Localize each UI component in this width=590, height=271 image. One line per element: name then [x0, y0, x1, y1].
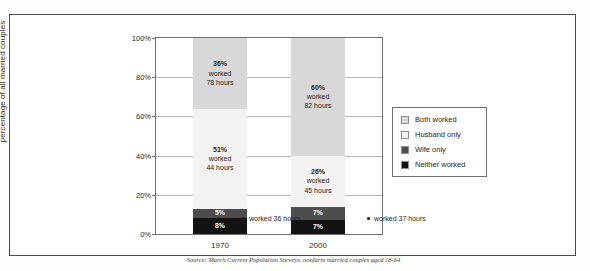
legend-label: Husband only: [415, 130, 461, 139]
segment-label-pct: 7%: [313, 209, 323, 218]
legend-label: Both worked: [415, 115, 457, 124]
wife-only-2000-callout: worked 37 hours: [367, 215, 426, 222]
legend-label: Wife only: [415, 145, 446, 154]
segment-label-pct: 36%: [213, 59, 227, 68]
chart-frame: percentage of all married couples 100% 8…: [9, 14, 576, 256]
segment-label-pct: 51%: [213, 145, 227, 154]
y-tick-label-20: 20%: [109, 190, 151, 199]
x-tick-label-1970: 1970: [185, 241, 255, 250]
legend-swatch-icon: [401, 116, 409, 124]
legend-swatch-icon: [401, 146, 409, 154]
segment-label-line3: 78 hours: [206, 78, 233, 87]
segment-label-line2: worked: [307, 92, 330, 101]
segment-label-line3: 82 hours: [304, 101, 331, 110]
segment-2000-husband-only[interactable]: 26% worked 45 hours: [291, 156, 345, 207]
y-axis-title: percentage of all married couples: [0, 0, 7, 182]
segment-2000-both-worked[interactable]: 60% worked 82 hours: [291, 38, 345, 156]
gridline-20: [156, 195, 382, 196]
callout-text: worked 37 hours: [374, 215, 426, 222]
segment-label-line3: 45 hours: [304, 186, 331, 195]
x-tick-label-2000: 2000: [283, 241, 353, 250]
segment-1970-husband-only[interactable]: 51% worked 44 hours: [193, 109, 247, 209]
y-tick-label-40: 40%: [109, 151, 151, 160]
segment-label-pct: 8%: [215, 222, 225, 231]
y-tick-label-100: 100%: [109, 34, 151, 43]
legend-item-husband-only[interactable]: Husband only: [401, 130, 480, 139]
segment-label-pct: 60%: [311, 83, 325, 92]
figure-container: percentage of all married couples 100% 8…: [0, 0, 590, 271]
y-tick-mark-80: [152, 77, 156, 78]
segment-1970-both-worked[interactable]: 36% worked 78 hours: [193, 38, 247, 109]
legend: Both worked Husband only Wife only Neith…: [392, 107, 487, 177]
y-tick-label-80: 80%: [109, 73, 151, 82]
legend-item-wife-only[interactable]: Wife only: [401, 145, 480, 154]
segment-label-line2: worked: [209, 154, 232, 163]
bar-2000[interactable]: 60% worked 82 hours 26% worked 45 hours …: [291, 38, 345, 234]
y-tick-mark-0: [152, 234, 156, 235]
y-tick-mark-100: [152, 38, 156, 39]
legend-label: Neither worked: [415, 160, 465, 169]
gridline-80: [156, 77, 382, 78]
gridline-60: [156, 116, 382, 117]
y-tick-mark-60: [152, 116, 156, 117]
segment-label-line2: worked: [209, 69, 232, 78]
segment-1970-wife-only[interactable]: 5%: [193, 209, 247, 219]
segment-label-line3: 44 hours: [206, 163, 233, 172]
segment-label-pct: 7%: [313, 223, 323, 232]
wife-only-1970-callout: worked 36 hours: [242, 215, 301, 222]
segment-label-pct: 5%: [215, 209, 225, 218]
bullet-dot-icon: [367, 217, 370, 220]
callout-text: worked 36 hours: [249, 215, 301, 222]
bar-1970[interactable]: 36% worked 78 hours 51% worked 44 hours …: [193, 38, 247, 234]
legend-swatch-icon: [401, 131, 409, 139]
segment-2000-neither-worked[interactable]: 7%: [291, 220, 345, 234]
legend-item-both-worked[interactable]: Both worked: [401, 115, 480, 124]
y-tick-label-60: 60%: [109, 112, 151, 121]
gridline-40: [156, 156, 382, 157]
y-tick-mark-40: [152, 156, 156, 157]
segment-label-line2: worked: [307, 176, 330, 185]
y-tick-mark-20: [152, 195, 156, 196]
legend-swatch-icon: [401, 161, 409, 169]
segment-1970-neither-worked[interactable]: 8%: [193, 218, 247, 234]
legend-item-neither-worked[interactable]: Neither worked: [401, 160, 480, 169]
source-note: Source: March Current Population Surveys…: [10, 256, 577, 263]
y-tick-label-0: 0%: [109, 230, 151, 239]
bullet-dot-icon: [242, 217, 245, 220]
plot-area: 100% 80% 60% 40% 20% 0% 36% worked 78 ho…: [155, 37, 383, 235]
segment-label-pct: 26%: [311, 167, 325, 176]
